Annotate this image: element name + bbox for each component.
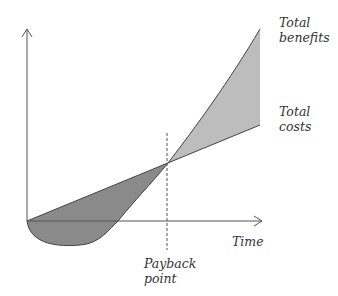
- total-costs-label: Total costs: [279, 104, 311, 134]
- costs-label-line2: costs: [279, 119, 311, 134]
- time-axis-label: Time: [232, 234, 264, 249]
- payback-label-line1: Payback: [144, 256, 196, 271]
- costs-label-line1: Total: [279, 104, 311, 119]
- payback-label-line2: point: [144, 271, 196, 286]
- total-benefits-label: Total benefits: [279, 15, 330, 45]
- total-costs-line: [27, 125, 260, 221]
- payback-diagram: Total benefits Total costs Time Payback …: [0, 0, 338, 296]
- payback-point-label: Payback point: [144, 256, 196, 286]
- benefits-label-line1: Total: [279, 15, 330, 30]
- benefits-label-line2: benefits: [279, 30, 330, 45]
- net-benefit-region: [168, 29, 260, 163]
- net-cost-region: [27, 163, 168, 246]
